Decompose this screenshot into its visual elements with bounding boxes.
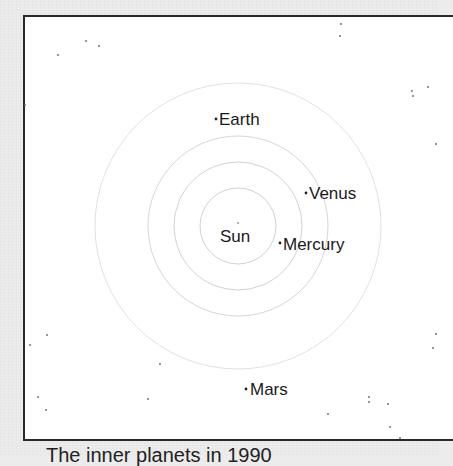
venus-dot (305, 192, 308, 195)
earth-orbit (148, 136, 328, 316)
mercury-orbit (200, 188, 276, 264)
mars-dot (245, 388, 248, 391)
mercury-dot (279, 242, 282, 245)
figure-caption: The inner planets in 1990 (46, 445, 272, 465)
sun-label: Sun (220, 228, 250, 245)
earth-label: Earth (219, 111, 260, 128)
venus-orbit (174, 162, 302, 290)
mars-label: Mars (250, 381, 288, 398)
mercury-label: Mercury (283, 236, 344, 253)
earth-dot (215, 118, 218, 121)
venus-label: Venus (309, 185, 356, 202)
sun-center-dot (237, 222, 239, 224)
